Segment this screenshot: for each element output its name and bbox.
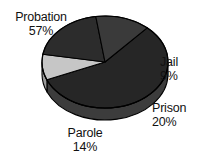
slice-label-prison: Prison 20% [152, 101, 202, 129]
slice-label-jail: Jail 9% [160, 55, 200, 83]
slice-label-parole: Parole 14% [52, 126, 118, 154]
slice-label-probation: Probation 57% [2, 10, 80, 38]
slice-label-parole-percent: 14% [52, 140, 118, 154]
slice-label-probation-name: Probation [2, 10, 80, 24]
slice-label-probation-percent: 57% [2, 24, 80, 38]
slice-label-prison-percent: 20% [152, 115, 202, 129]
slice-label-jail-percent: 9% [160, 69, 200, 83]
slice-label-jail-name: Jail [160, 55, 200, 69]
slice-label-parole-name: Parole [52, 126, 118, 140]
slice-label-prison-name: Prison [152, 101, 202, 115]
pie-chart-figure: Probation 57% Jail 9% Prison 20% Parole … [0, 0, 204, 161]
